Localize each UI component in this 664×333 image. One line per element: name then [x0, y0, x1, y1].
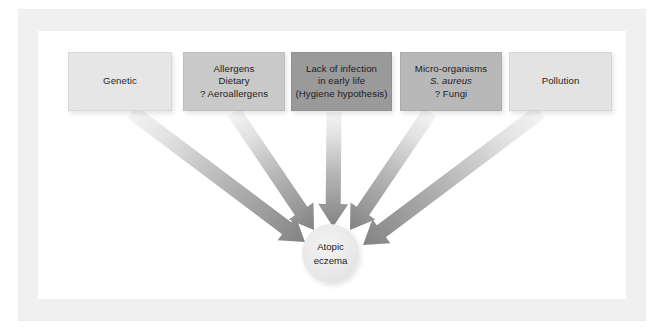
factor-box-allergens-line-2: Dietary — [218, 75, 249, 88]
center-node-line-2: eczema — [314, 254, 348, 268]
factor-box-lack-of-infection[interactable]: Lack of infectionin early life(Hygiene h… — [291, 52, 392, 111]
box-layer: GeneticAllergensDietary? AeroallergensLa… — [0, 0, 664, 333]
factor-box-micro-organisms[interactable]: Micro-organismsS. aureus? Fungi — [400, 52, 502, 111]
factor-box-pollution[interactable]: Pollution — [509, 52, 612, 111]
factor-box-genetic[interactable]: Genetic — [68, 52, 172, 111]
center-node-line-1: Atopic — [317, 240, 344, 254]
factor-box-allergens-line-3: ? Aeroallergens — [200, 88, 268, 101]
factor-box-pollution-line-1: Pollution — [542, 75, 580, 88]
factor-box-allergens-line-1: Allergens — [214, 63, 255, 76]
factor-box-genetic-line-1: Genetic — [103, 75, 137, 88]
center-node-atopic-eczema[interactable]: Atopic eczema — [302, 224, 359, 283]
factor-box-micro-organisms-line-3: ? Fungi — [435, 88, 468, 101]
factor-box-micro-organisms-line-1: Micro-organisms — [415, 63, 487, 76]
figure-root: GeneticAllergensDietary? AeroallergensLa… — [0, 0, 664, 333]
factor-box-lack-of-infection-line-2: in early life — [318, 75, 365, 88]
factor-box-allergens[interactable]: AllergensDietary? Aeroallergens — [183, 52, 285, 111]
factor-box-lack-of-infection-line-1: Lack of infection — [306, 63, 377, 76]
factor-box-micro-organisms-line-2: S. aureus — [430, 75, 472, 88]
factor-box-lack-of-infection-line-3: (Hygiene hypothesis) — [295, 88, 387, 101]
